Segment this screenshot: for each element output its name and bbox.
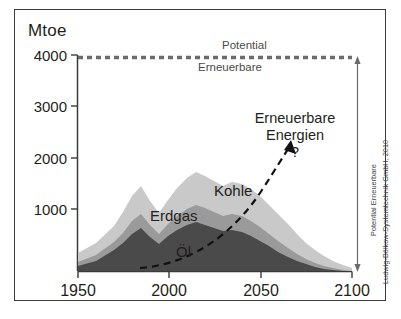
renewables-annotation-line2: Energien: [240, 127, 350, 144]
series-label-kohle: Kohle: [214, 183, 252, 198]
x-tick-label-1950: 1950: [48, 283, 108, 299]
range-arrow-head-top: [354, 56, 360, 64]
y-tick-label-3000: 3000: [21, 99, 67, 114]
range-arrow-head-bottom: [354, 264, 360, 272]
x-tick-label-2000: 2000: [139, 283, 199, 299]
y-tick-label-1000: 1000: [21, 202, 67, 217]
x-tick-label-2100: 2100: [322, 283, 382, 299]
side-label-potential-erneuerbare: Potential Erneuerbare: [369, 164, 378, 236]
y-tick-label-2000: 2000: [21, 151, 67, 166]
series-label-erdgas: Erdgas: [150, 208, 198, 223]
renewables-annotation-line3: ?: [240, 144, 350, 161]
x-tick-label-2050: 2050: [231, 283, 291, 299]
series-label-oel: Öl: [176, 244, 191, 259]
y-axis-title: Mtoe: [28, 22, 67, 39]
renewables-annotation-line1: Erneuerbare: [240, 110, 350, 127]
potential-label: Potential: [222, 40, 267, 52]
erneuerbare-label: Erneuerbare: [198, 62, 262, 74]
renewables-annotation: Erneuerbare Energien ?: [240, 110, 350, 161]
credit-label: Ludwig-Bölkow-Systemtechnik GmbH, 2010: [381, 140, 390, 284]
y-tick-label-4000: 4000: [21, 48, 67, 63]
